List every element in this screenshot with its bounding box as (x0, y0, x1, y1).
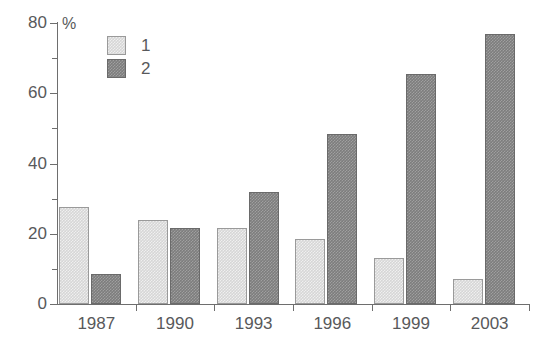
x-tick-mark (214, 304, 215, 311)
bar-series-1-1987 (59, 207, 89, 304)
x-tick-mark (293, 304, 294, 311)
x-tick-label: 1987 (57, 315, 136, 332)
y-tick-label: 40 (3, 155, 47, 172)
bar-series-2-2003 (485, 34, 515, 304)
x-tick-label: 1990 (136, 315, 215, 332)
bar-chart: % 020406080 198719901993199619992003 12 (0, 0, 534, 344)
legend-item: 2 (107, 57, 150, 80)
x-tick-label: 1996 (293, 315, 372, 332)
bar-series-2-1993 (249, 192, 279, 304)
x-tick-label: 2003 (450, 315, 529, 332)
y-tick-major (50, 93, 57, 94)
y-tick-major (50, 23, 57, 24)
legend-swatch-icon (107, 36, 126, 55)
legend-label: 1 (141, 37, 150, 54)
x-tick-mark (529, 304, 530, 311)
bar-series-1-1993 (217, 228, 247, 304)
bar-series-1-2003 (453, 279, 483, 304)
legend-item: 1 (107, 34, 150, 57)
y-tick-label: 60 (3, 84, 47, 101)
legend: 12 (107, 34, 150, 80)
bar-series-2-1987 (91, 274, 121, 304)
y-tick-label: 0 (3, 295, 47, 312)
legend-label: 2 (141, 60, 150, 77)
x-tick-mark (136, 304, 137, 311)
x-tick-label: 1993 (214, 315, 293, 332)
y-tick-major (50, 234, 57, 235)
y-tick-label: 80 (3, 14, 47, 31)
bar-series-2-1999 (406, 74, 436, 304)
bar-series-1-1999 (374, 258, 404, 304)
x-tick-mark (450, 304, 451, 311)
bar-series-1-1996 (295, 239, 325, 304)
y-tick-major (50, 304, 57, 305)
x-tick-label: 1999 (372, 315, 451, 332)
y-tick-label: 20 (3, 225, 47, 242)
bar-series-1-1990 (138, 220, 168, 304)
x-tick-mark (372, 304, 373, 311)
legend-swatch-icon (107, 59, 126, 78)
y-tick-major (50, 164, 57, 165)
bar-series-2-1996 (327, 134, 357, 304)
bar-series-2-1990 (170, 228, 200, 304)
